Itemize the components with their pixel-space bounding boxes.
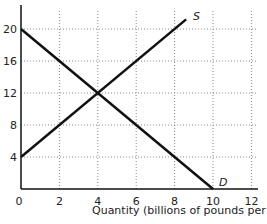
x-tick-label: 2: [56, 195, 63, 208]
demand-curve-label: D: [219, 176, 227, 189]
y-tick-label: 8: [10, 119, 17, 132]
curve-d: [21, 29, 213, 189]
x-tick-label: 0: [16, 195, 23, 208]
y-tick-label: 4: [10, 151, 17, 164]
y-tick-label: 20: [3, 23, 17, 36]
y-tick-label: 12: [3, 87, 17, 100]
curve-s: [21, 19, 186, 157]
supply-curve-label: S: [193, 10, 200, 23]
supply-demand-chart: 02468101248121620SD: [0, 0, 267, 224]
x-axis-label: Quantity (billions of pounds per year): [92, 204, 267, 217]
y-tick-label: 16: [3, 55, 17, 68]
